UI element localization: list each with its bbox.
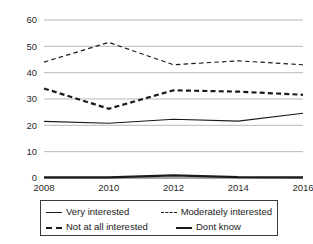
legend-row-1: Very interested Moderately interested [46, 204, 272, 219]
y-gridlines [44, 20, 303, 152]
line-swatch-dashed-bold-icon [46, 222, 62, 232]
data-series-group [44, 42, 303, 177]
series-line-dont-know [44, 175, 303, 177]
x-tick-label: 2012 [163, 182, 184, 193]
series-line-very-interested [44, 113, 303, 123]
y-tick-label: 40 [26, 67, 37, 78]
legend-entry-moderately-interested: Moderately interested [161, 206, 272, 217]
line-swatch-solid-thin-icon [46, 207, 62, 217]
line-chart: 0102030405060 20082010201220142016 Very … [0, 0, 313, 244]
x-tick-label: 2008 [33, 182, 54, 193]
legend-label-moderately-interested: Moderately interested [181, 206, 272, 217]
chart-legend: Very interested Moderately interested No… [40, 200, 278, 236]
x-tick-label: 2014 [228, 182, 249, 193]
x-tick-label: 2016 [292, 182, 313, 193]
legend-entry-dont-know: Dont know [176, 221, 241, 232]
legend-entry-very-interested: Very interested [46, 206, 161, 217]
legend-row-2: Not at all interested Dont know [46, 219, 272, 234]
y-tick-label: 60 [26, 14, 37, 25]
line-swatch-solid-bold-icon [176, 222, 192, 232]
y-tick-label: 50 [26, 41, 37, 52]
x-tick-label: 2010 [98, 182, 119, 193]
x-axis-tick-labels: 20082010201220142016 [33, 182, 313, 193]
legend-entry-not-at-all-interested: Not at all interested [46, 221, 176, 232]
y-tick-label: 10 [26, 146, 37, 157]
series-line-moderately-interested [44, 42, 303, 64]
series-line-not-at-all-interested [44, 88, 303, 108]
legend-label-very-interested: Very interested [66, 206, 129, 217]
y-tick-label: 20 [26, 120, 37, 131]
y-tick-label: 30 [26, 93, 37, 104]
line-swatch-dashed-thin-icon [161, 207, 177, 217]
legend-label-not-at-all-interested: Not at all interested [66, 221, 148, 232]
legend-label-dont-know: Dont know [196, 221, 241, 232]
y-axis-tick-labels: 0102030405060 [26, 14, 37, 183]
